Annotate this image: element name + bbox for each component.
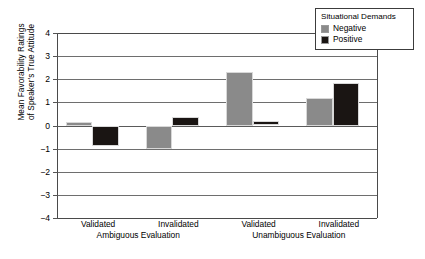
x-group-label-1: Unambiguous Evaluation bbox=[252, 231, 345, 239]
x-tick-label-0: Validated bbox=[81, 220, 115, 228]
legend-entries: NegativePositive bbox=[321, 23, 409, 45]
x-group-label-0: Ambiguous Evaluation bbox=[97, 231, 180, 239]
gridline-3 bbox=[58, 56, 377, 57]
y-tick-2 bbox=[53, 79, 58, 80]
x-tick-label-2: Validated bbox=[241, 220, 275, 228]
y-tick-label--2: −2 bbox=[40, 167, 50, 176]
gridline--3 bbox=[58, 195, 377, 196]
bar-validated-positive-0 bbox=[92, 126, 119, 147]
legend-swatch-negative bbox=[321, 25, 329, 33]
y-tick--4 bbox=[53, 218, 58, 219]
y-tick--2 bbox=[53, 172, 58, 173]
y-tick-label--4: −4 bbox=[40, 214, 50, 223]
y-tick-label--3: −3 bbox=[40, 191, 50, 200]
bar-invalidated-negative-3 bbox=[306, 98, 333, 126]
y-tick--1 bbox=[53, 149, 58, 150]
bar-invalidated-positive-1 bbox=[172, 117, 199, 125]
bar-invalidated-negative-1 bbox=[146, 126, 173, 149]
y-axis-title-line-2: of Speaker's True Attitude bbox=[27, 0, 37, 167]
y-tick--3 bbox=[53, 195, 58, 196]
legend-entry-negative: Negative bbox=[321, 23, 409, 34]
y-tick-4 bbox=[53, 33, 58, 34]
legend-entry-positive: Positive bbox=[321, 34, 409, 45]
y-tick-label-3: 3 bbox=[45, 52, 50, 61]
legend-swatch-positive bbox=[321, 36, 329, 44]
legend: Situational Demands NegativePositive bbox=[315, 8, 414, 50]
legend-label-positive: Positive bbox=[333, 35, 362, 43]
y-axis-title: Mean Favorability Ratings of Speaker's T… bbox=[17, 0, 37, 167]
gridline--1 bbox=[58, 149, 377, 150]
y-tick-label-2: 2 bbox=[45, 75, 50, 84]
bar-validated-positive-2 bbox=[253, 121, 280, 125]
bar-validated-negative-2 bbox=[226, 72, 253, 125]
y-tick-label-0: 0 bbox=[45, 121, 50, 130]
legend-title: Situational Demands bbox=[321, 12, 409, 22]
y-tick-3 bbox=[53, 56, 58, 57]
bar-chart-figure: Mean Favorability Ratings of Speaker's T… bbox=[0, 0, 425, 259]
bar-invalidated-positive-3 bbox=[333, 83, 360, 126]
bar-validated-negative-0 bbox=[66, 122, 93, 125]
x-tick-label-3: Invalidated bbox=[319, 220, 360, 228]
legend-label-negative: Negative bbox=[333, 24, 366, 32]
y-axis-title-line-1: Mean Favorability Ratings bbox=[17, 0, 27, 167]
gridline-2 bbox=[58, 79, 377, 80]
gridline--2 bbox=[58, 172, 377, 173]
y-tick-0 bbox=[53, 126, 58, 127]
y-tick-label--1: −1 bbox=[40, 144, 50, 153]
y-tick-label-1: 1 bbox=[45, 98, 50, 107]
y-tick-1 bbox=[53, 102, 58, 103]
y-tick-label-4: 4 bbox=[45, 29, 50, 38]
x-tick-label-1: Invalidated bbox=[158, 220, 199, 228]
plot-area: 43210−1−2−3−4 ValidatedInvalidatedValida… bbox=[57, 33, 378, 218]
